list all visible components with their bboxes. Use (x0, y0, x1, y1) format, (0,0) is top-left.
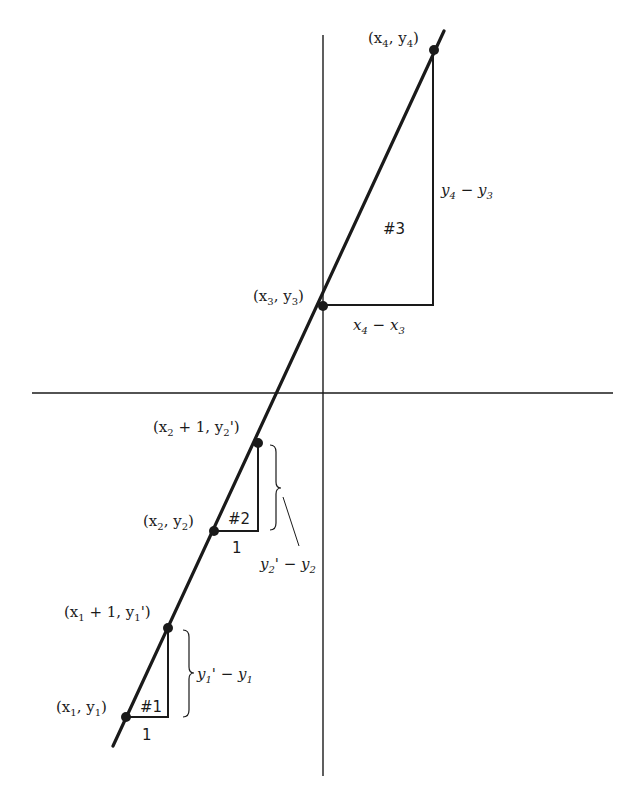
label-point-1: (x1, y1) (56, 698, 107, 718)
label-point-3: (x3, y3) (253, 287, 304, 307)
label-rise-1: y1' − y1 (196, 665, 253, 685)
label-triangle-3: #3 (383, 220, 405, 238)
slope-diagram: (x4, y4) (x3, y3) (x2 + 1, y2') (x2, y2)… (0, 0, 643, 806)
label-point-2: (x2, y2) (143, 512, 194, 532)
label-point-1-prime: (x1 + 1, y1') (64, 603, 151, 623)
brace-1 (183, 630, 194, 717)
point-x4-y4 (429, 45, 439, 55)
label-point-2-prime: (x2 + 1, y2') (153, 418, 240, 438)
point-x3-y3 (318, 301, 328, 311)
label-run-2: 1 (232, 539, 242, 557)
point-x1-y1 (121, 712, 131, 722)
brace-2 (270, 445, 281, 530)
label-rise-2: y2' − y2 (259, 555, 316, 575)
point-x2-y2 (209, 526, 219, 536)
label-triangle-2: #2 (228, 510, 250, 528)
pointer-line-2 (283, 497, 299, 546)
label-triangle-1: #1 (140, 698, 162, 716)
main-line (113, 31, 444, 746)
label-rise-3: y4 − y3 (440, 181, 493, 201)
point-x1plus1-y1prime (163, 623, 173, 633)
label-run-3: x4 − x3 (353, 316, 405, 336)
label-point-4: (x4, y4) (368, 29, 419, 49)
label-run-1: 1 (142, 726, 152, 744)
point-x2plus1-y2prime (253, 438, 263, 448)
